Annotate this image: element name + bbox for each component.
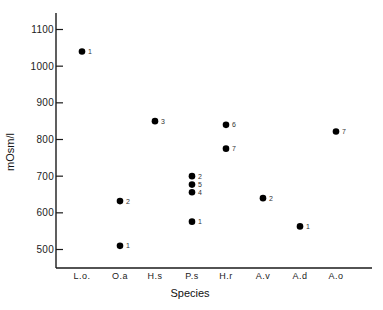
y-tick-label: 900 xyxy=(36,97,54,108)
x-category-label: L.o. xyxy=(73,271,90,281)
point-count-label: 7 xyxy=(342,128,346,135)
x-category-label: A.o xyxy=(328,271,343,281)
data-point: 1 xyxy=(117,242,130,249)
data-point: 7 xyxy=(333,128,346,135)
point-marker xyxy=(260,195,267,202)
data-point: 5 xyxy=(189,181,202,188)
x-category-label: H.s xyxy=(148,271,163,281)
point-marker xyxy=(189,189,196,196)
x-category-labels: L.o.O.aH.sP.sH.rA.vA.dA.o xyxy=(73,271,343,281)
data-points: 1213254167217 xyxy=(79,48,346,249)
y-axis-title: mOsm/l xyxy=(4,133,16,171)
point-marker xyxy=(223,145,230,152)
point-marker xyxy=(117,243,124,250)
point-marker xyxy=(223,122,230,129)
point-count-label: 4 xyxy=(198,189,202,196)
data-point: 7 xyxy=(223,145,236,152)
point-count-label: 6 xyxy=(232,121,236,128)
point-count-label: 3 xyxy=(161,118,165,125)
y-tick-label: 1000 xyxy=(31,61,55,72)
point-marker xyxy=(333,128,340,135)
x-category-label: O.a xyxy=(112,271,128,281)
data-point: 2 xyxy=(189,173,202,180)
y-tick-label: 700 xyxy=(36,171,54,182)
x-axis-title: Species xyxy=(170,287,210,299)
point-count-label: 1 xyxy=(306,223,310,230)
scatter-chart: 50060070080090010001100 L.o.O.aH.sP.sH.r… xyxy=(0,0,383,310)
x-category-label: P.s xyxy=(185,271,198,281)
y-tick-label: 500 xyxy=(36,244,54,255)
point-count-label: 1 xyxy=(88,48,92,55)
y-tick-label: 1100 xyxy=(31,24,54,35)
point-marker xyxy=(297,223,304,230)
y-tick-label: 800 xyxy=(36,134,54,145)
point-count-label: 7 xyxy=(232,145,236,152)
y-tick-label: 600 xyxy=(36,207,54,218)
point-marker xyxy=(117,198,124,205)
point-marker xyxy=(152,118,159,125)
y-ticks: 50060070080090010001100 xyxy=(31,24,63,255)
data-point: 6 xyxy=(223,121,236,128)
point-count-label: 5 xyxy=(198,181,202,188)
x-category-label: H.r xyxy=(219,271,233,281)
data-point: 4 xyxy=(189,189,202,196)
data-point: 2 xyxy=(260,195,273,202)
data-point: 1 xyxy=(297,223,310,230)
data-point: 1 xyxy=(189,218,202,225)
point-marker xyxy=(189,181,196,188)
point-count-label: 1 xyxy=(198,218,202,225)
point-marker xyxy=(189,173,196,180)
x-category-label: A.v xyxy=(256,271,271,281)
point-marker xyxy=(189,218,196,225)
point-marker xyxy=(79,48,86,55)
data-point: 1 xyxy=(79,48,92,55)
x-category-label: A.d xyxy=(292,271,307,281)
point-count-label: 2 xyxy=(198,173,202,180)
axes xyxy=(56,13,372,268)
data-point: 3 xyxy=(152,118,165,125)
point-count-label: 2 xyxy=(269,195,273,202)
point-count-label: 2 xyxy=(126,198,130,205)
data-point: 2 xyxy=(117,198,130,205)
point-count-label: 1 xyxy=(126,242,130,249)
